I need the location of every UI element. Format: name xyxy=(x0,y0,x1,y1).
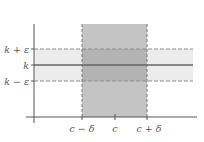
label-k-minus-epsilon: k − ε xyxy=(4,76,29,87)
label-c: c xyxy=(112,123,118,134)
label-c-plus-delta: c + δ xyxy=(136,123,161,134)
label-k-plus-epsilon: k + ε xyxy=(4,44,29,55)
label-c-minus-delta: c − δ xyxy=(69,123,94,134)
label-k: k xyxy=(23,60,29,71)
epsilon-delta-diagram: k + ε k k − ε c − δ c c + δ xyxy=(0,0,204,142)
